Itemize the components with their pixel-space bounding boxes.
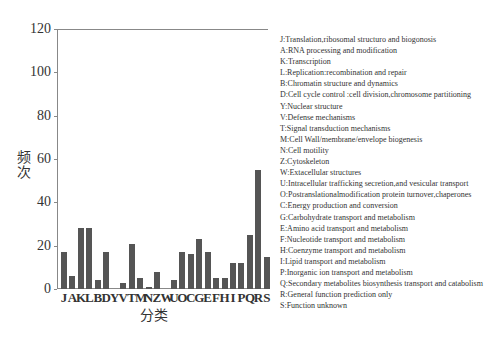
bar-E bbox=[205, 252, 211, 289]
y-tick-label: 120 bbox=[30, 21, 51, 37]
legend-item: S:Function unknown bbox=[280, 300, 483, 311]
legend-item: Q:Secondary metabolites biosynthesis tra… bbox=[280, 278, 483, 289]
bar-V bbox=[120, 283, 126, 290]
bar-U bbox=[171, 280, 177, 289]
legend-item: C:Energy production and conversion bbox=[280, 200, 483, 211]
bar-B bbox=[95, 280, 101, 289]
legend-item: A:RNA processing and modification bbox=[280, 45, 483, 56]
y-tick-mark bbox=[54, 246, 57, 247]
legend-item: U:Intracellular trafficking secretion,an… bbox=[280, 178, 483, 189]
bar-I bbox=[230, 263, 236, 289]
bar-R bbox=[255, 170, 261, 289]
legend-item: R:General function prediction only bbox=[280, 289, 483, 300]
legend-item: F:Nucleotide transport and metabolism bbox=[280, 234, 483, 245]
legend-item: Z:Cytoskeleton bbox=[280, 156, 483, 167]
bar-S bbox=[264, 257, 270, 290]
bar-A bbox=[69, 276, 75, 289]
x-tick-label: S bbox=[262, 290, 272, 306]
y-tick-mark bbox=[54, 116, 57, 117]
bar-P bbox=[238, 263, 244, 289]
legend-item: I:Lipid transport and metabolism bbox=[280, 256, 483, 267]
bar-T bbox=[129, 244, 135, 290]
legend: J:Translation,ribosomal structuro and bi… bbox=[280, 34, 483, 311]
bar-Q bbox=[247, 235, 253, 289]
bar-O bbox=[179, 252, 185, 289]
legend-item: B:Chromatin structure and dynamics bbox=[280, 78, 483, 89]
y-axis-title: 频次 bbox=[17, 150, 33, 180]
bar-G bbox=[196, 239, 202, 289]
y-tick-label: 20 bbox=[37, 238, 51, 254]
legend-item: G:Carbohydrate transport and metabolism bbox=[280, 212, 483, 223]
legend-item: L:Replication:recombination and repair bbox=[280, 67, 483, 78]
bar-L bbox=[86, 228, 92, 289]
bar-M bbox=[137, 278, 143, 289]
legend-item: J:Translation,ribosomal structuro and bi… bbox=[280, 34, 483, 45]
y-tick-label: 80 bbox=[37, 108, 51, 124]
bar-H bbox=[222, 278, 228, 289]
y-tick-mark bbox=[54, 72, 57, 73]
legend-item: E:Amino acid transport and metabolism bbox=[280, 223, 483, 234]
bar-J bbox=[61, 252, 67, 289]
bar-C bbox=[188, 254, 194, 289]
y-tick-label: 100 bbox=[30, 64, 51, 80]
bar-F bbox=[213, 278, 219, 289]
legend-item: N:Cell motility bbox=[280, 145, 483, 156]
top-border bbox=[57, 29, 268, 30]
y-tick-mark bbox=[54, 159, 57, 160]
legend-item: P:Inorganic ion transport and metabolism bbox=[280, 267, 483, 278]
bar-K bbox=[78, 228, 84, 289]
legend-item: M:Cell Wall/membrane/envelope biogenesis bbox=[280, 134, 483, 145]
legend-item: T:Signal transduction mechanisms bbox=[280, 123, 483, 134]
x-axis-title: 分类 bbox=[140, 304, 168, 324]
bar-Z bbox=[154, 272, 160, 289]
plot-area bbox=[57, 29, 268, 289]
y-axis bbox=[57, 29, 58, 289]
legend-item: D:Cell cycle control :cell division,chro… bbox=[280, 89, 483, 100]
bar-N bbox=[146, 287, 152, 289]
legend-item: O:Postranslationalmodification protein t… bbox=[280, 189, 483, 200]
y-tick-label: 60 bbox=[37, 151, 51, 167]
y-tick-label: 0 bbox=[44, 281, 51, 297]
y-tick-label: 40 bbox=[37, 194, 51, 210]
bar-D bbox=[103, 252, 109, 289]
y-tick-mark bbox=[54, 202, 57, 203]
legend-item: Y:Nuclear structure bbox=[280, 101, 483, 112]
legend-item: K:Transcription bbox=[280, 56, 483, 67]
legend-item: V:Defense mechanisms bbox=[280, 112, 483, 123]
y-tick-mark bbox=[54, 29, 57, 30]
legend-item: H:Coenzyme transport and metabolism bbox=[280, 245, 483, 256]
legend-item: W:Extacellular structures bbox=[280, 167, 483, 178]
